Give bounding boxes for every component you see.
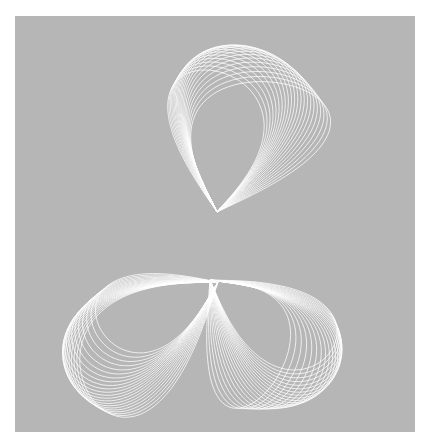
loop-curve — [180, 45, 295, 212]
loop-curve — [65, 281, 218, 389]
top-lobe — [168, 45, 331, 212]
loop-curve — [210, 280, 317, 409]
lower-right-lobe — [207, 280, 342, 409]
line-art-lobes — [0, 0, 427, 445]
loop-curve — [210, 280, 336, 405]
lower-left-lobe — [63, 274, 219, 418]
